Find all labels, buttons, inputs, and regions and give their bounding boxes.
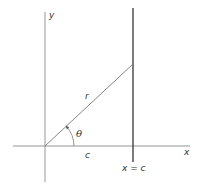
distance-c-label: c [85,150,90,160]
angle-arc [66,126,74,146]
vertical-line-label: x = c [121,163,146,173]
x-axis-label: x [183,147,190,157]
angle-theta-label: θ [76,128,82,139]
polar-coordinate-diagram: y x r θ c x = c [0,0,201,188]
y-axis-label: y [48,10,55,20]
radius-label: r [85,91,90,101]
radius-line [45,64,133,146]
